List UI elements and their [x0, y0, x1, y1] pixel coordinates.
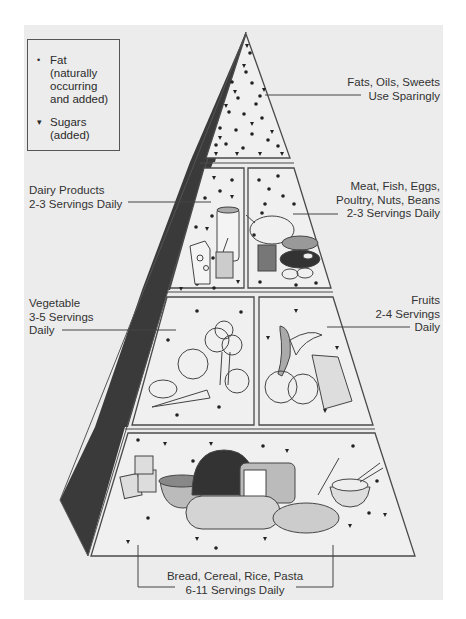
label-fats-oils-sweets: Fats, Oils, Sweets Use Sparingly [347, 76, 440, 103]
steak-illustration [280, 250, 320, 268]
french-bread-illustration [186, 496, 280, 529]
label-dairy: Dairy Products 2-3 Servings Daily [29, 184, 122, 211]
dot-icon: • [37, 54, 40, 67]
label-vegetable: Vegetable 3-5 Servings Daily [29, 297, 94, 338]
label-fruits: Fruits 2-4 Servings Daily [375, 294, 440, 335]
label-grains: Bread, Cereal, Rice, Pasta 6-11 Servings… [135, 570, 335, 597]
pizza-illustration [273, 503, 339, 533]
legend-item-sugars: ▾ Sugars (added) [50, 116, 90, 142]
fish-illustration [282, 236, 318, 250]
label-meat: Meat, Fish, Eggs, Poultry, Nuts, Beans 2… [336, 180, 440, 221]
nuts-beans-illustration [258, 245, 276, 271]
triangle-icon: ▾ [37, 116, 42, 129]
legend-item-fat: • Fat (naturally occurring and added) [50, 54, 108, 106]
legend-box: • Fat (naturally occurring and added) ▾ … [27, 39, 120, 151]
